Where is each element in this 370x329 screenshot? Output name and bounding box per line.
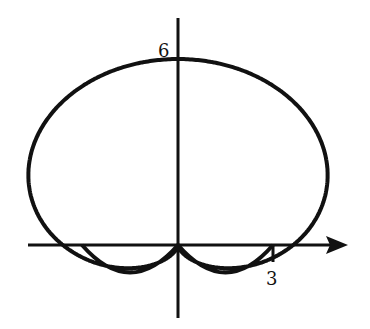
polar-curve-diagram xyxy=(0,0,370,329)
label-six: 6 xyxy=(158,42,169,60)
label-three: 3 xyxy=(266,270,277,288)
